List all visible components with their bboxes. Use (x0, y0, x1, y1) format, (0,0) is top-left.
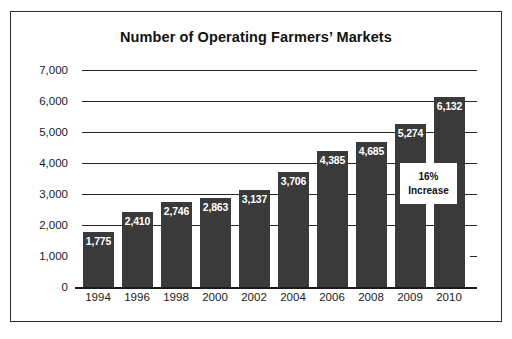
chart-figure: Number of Operating Farmers’ Markets 7,0… (0, 0, 512, 339)
bar-value-2008: 4,685 (356, 145, 387, 157)
ytick-mark-6000 (470, 101, 477, 102)
gridline-6000 (82, 101, 470, 102)
ytick-label-2000: 2,000 (8, 219, 68, 231)
chart-title: Number of Operating Farmers’ Markets (0, 29, 512, 45)
ytick-label-6000: 6,000 (8, 95, 68, 107)
ytick-mark-7000 (470, 70, 477, 71)
increase-callout-label: Increase (408, 184, 449, 198)
bar-value-1998: 2,746 (161, 205, 192, 217)
bar-2008[interactable]: 4,685 (356, 142, 387, 287)
bar-value-2010: 6,132 (434, 100, 465, 112)
ytick-mark-4000 (470, 163, 477, 164)
ytick-label-0: 0 (8, 281, 68, 293)
gridline-7000 (82, 70, 470, 71)
ytick-label-1000: 1,000 (8, 250, 68, 262)
bar-value-2004: 3,706 (278, 175, 309, 187)
bar-2002[interactable]: 3,137 (239, 190, 270, 287)
ytick-label-7000: 7,000 (8, 64, 68, 76)
ytick-label-4000: 4,000 (8, 157, 68, 169)
ytick-mark-2000 (470, 225, 477, 226)
increase-callout-percent: 16% (418, 170, 438, 184)
x-axis-line (75, 287, 477, 289)
bar-value-2009: 5,274 (395, 127, 426, 139)
bar-1998[interactable]: 2,746 (161, 202, 192, 287)
bar-value-1994: 1,775 (83, 235, 114, 247)
ytick-mark-3000 (470, 194, 477, 195)
increase-callout: 16% Increase (400, 163, 457, 204)
bar-1994[interactable]: 1,775 (83, 232, 114, 287)
bar-2000[interactable]: 2,863 (200, 198, 231, 287)
bar-value-1996: 2,410 (122, 215, 153, 227)
bar-2009[interactable]: 5,274 (395, 124, 426, 287)
bar-value-2000: 2,863 (200, 201, 231, 213)
ytick-label-3000: 3,000 (8, 188, 68, 200)
ytick-mark-1000 (470, 256, 477, 257)
ytick-mark-5000 (470, 132, 477, 133)
bar-1996[interactable]: 2,410 (122, 212, 153, 287)
bar-2006[interactable]: 4,385 (317, 151, 348, 287)
ytick-label-5000: 5,000 (8, 126, 68, 138)
xtick-label-2010: 2010 (426, 291, 472, 303)
bar-value-2002: 3,137 (239, 193, 270, 205)
bar-2004[interactable]: 3,706 (278, 172, 309, 287)
bar-value-2006: 4,385 (317, 154, 348, 166)
